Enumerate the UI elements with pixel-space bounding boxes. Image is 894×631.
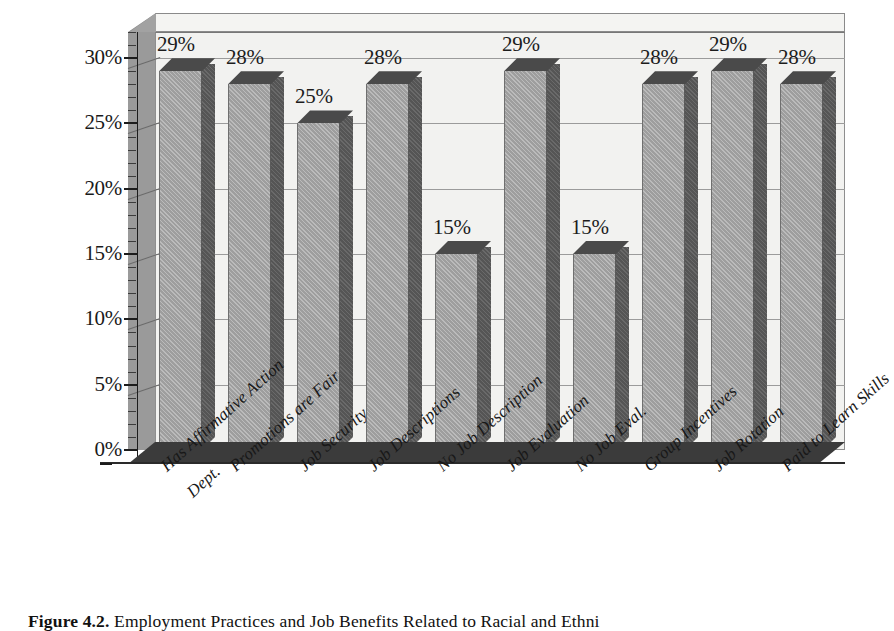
bar [159,58,202,450]
y-axis-minor-tick [128,176,136,177]
chart-ceiling-panel [155,13,845,32]
y-axis-minor-tick [128,150,136,151]
bar-side-face [409,77,422,450]
bar [780,71,823,450]
bar-side-face [685,77,698,450]
y-axis-minor-tick [128,45,136,46]
figure-caption: Figure 4.2. Employment Practices and Job… [28,611,848,631]
y-axis-tick-label: 20% [84,176,122,201]
caption-label: Figure 4.2. [28,611,110,631]
y-axis-tick-label: 10% [84,306,122,331]
bar-front-face [642,84,685,450]
y-axis-minor-tick [128,84,136,85]
y-axis-major-tick [124,318,138,320]
bar-value-label: 29% [157,32,195,57]
bar-value-label: 28% [226,45,264,70]
y-axis-minor-tick [128,372,136,373]
bar-value-label: 15% [571,215,609,240]
y-axis-minor-tick [128,332,136,333]
bar [573,241,616,450]
y-axis-minor-tick [128,424,136,425]
bar-front-face [366,84,409,450]
bar-value-label: 15% [433,215,471,240]
y-axis-minor-tick [128,306,136,307]
bar-side-face [340,116,353,450]
y-axis-minor-tick [128,411,136,412]
x-axis-category-labels: Has Affirmative ActionDept.Promotions ar… [0,455,865,605]
bar-value-label: 28% [364,45,402,70]
y-axis-tick-label: 15% [84,241,122,266]
y-axis-major-tick [124,188,138,190]
y-axis-minor-tick [128,137,136,138]
y-axis-major-tick [124,449,138,451]
x-axis-category-label: Dept. [183,462,224,502]
y-axis-minor-tick [128,163,136,164]
bar-side-face [202,64,215,450]
y-axis-major-tick [124,122,138,124]
bar-side-face [271,77,284,450]
bar-value-label: 29% [709,32,747,57]
y-axis-tick-label: 5% [95,372,122,397]
bar-value-label: 29% [502,32,540,57]
y-axis-minor-tick [128,110,136,111]
y-axis-major-tick [124,57,138,59]
y-axis-minor-tick [128,228,136,229]
y-axis-major-tick [124,384,138,386]
bar [435,241,478,450]
y-axis-minor-tick [128,359,136,360]
bar [642,71,685,450]
y-axis-minor-tick [128,97,136,98]
y-axis-minor-tick [128,293,136,294]
y-axis-tick-label: 25% [84,110,122,135]
y-axis-tick-labels: 0%5%10%15%20%25%30% [10,0,122,475]
y-axis-minor-tick [128,215,136,216]
bar-value-label: 28% [778,45,816,70]
bar-front-face [780,84,823,450]
y-axis-minor-tick [128,241,136,242]
caption-text: Employment Practices and Job Benefits Re… [114,611,600,631]
bar-front-face [435,254,478,450]
y-axis-tick-label: 30% [84,45,122,70]
y-axis-minor-tick [128,346,136,347]
y-axis-minor-tick [128,398,136,399]
bar-side-face [547,64,560,450]
bar-side-face [823,77,836,450]
bar [366,71,409,450]
y-axis-minor-tick [128,267,136,268]
y-axis-major-tick [124,253,138,255]
bar-front-face [159,71,202,450]
y-axis-minor-tick [128,437,136,438]
bar-value-label: 25% [295,84,333,109]
bar-value-label: 28% [640,45,678,70]
y-axis-minor-tick [128,71,136,72]
y-axis-minor-tick [128,202,136,203]
y-axis-minor-tick [128,280,136,281]
y-axis-minor-tick [128,32,136,33]
bar-front-face [573,254,616,450]
y-axis-line [137,32,138,464]
bar-side-face [754,64,767,450]
